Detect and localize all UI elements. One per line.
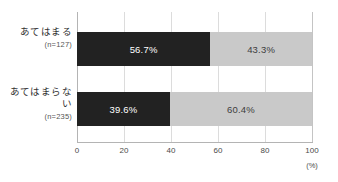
x-tick-label-20: 20 [120, 146, 129, 155]
x-tick-label-0: 0 [75, 146, 79, 155]
bar-segment-dark: 56.7% [77, 32, 210, 66]
bar-segment-light: 43.3% [210, 32, 312, 66]
bar-segment-light: 60.4% [170, 92, 312, 126]
stacked-bar-chart: 56.7% 43.3% 39.6% 60.4% あてはまる (n=127) あて… [0, 0, 338, 182]
bar-value-label: 43.3% [247, 44, 275, 55]
x-axis-unit-label: (%) [306, 161, 318, 170]
bar-row: 56.7% 43.3% [77, 32, 312, 66]
category-label-group: あてはまらない (n=235) [0, 86, 72, 121]
category-sample-size: (n=235) [0, 112, 72, 121]
bar-segment-dark: 39.6% [77, 92, 170, 126]
category-sample-size: (n=127) [0, 40, 72, 49]
bar-value-label: 56.7% [130, 44, 158, 55]
gridline-100 [312, 12, 313, 142]
bar-row: 39.6% 60.4% [77, 92, 312, 126]
bar-value-label: 60.4% [227, 104, 255, 115]
bar-value-label: 39.6% [110, 104, 138, 115]
x-tick-label-40: 40 [167, 146, 176, 155]
x-tick-label-80: 80 [261, 146, 270, 155]
x-axis-line [77, 142, 313, 143]
x-tick-label-60: 60 [214, 146, 223, 155]
plot-area: 56.7% 43.3% 39.6% 60.4% [77, 12, 312, 142]
category-label-group: あてはまる (n=127) [0, 26, 72, 49]
category-label: あてはまらない [0, 86, 72, 110]
x-tick-label-100: 100 [305, 146, 318, 155]
category-label: あてはまる [0, 26, 72, 38]
